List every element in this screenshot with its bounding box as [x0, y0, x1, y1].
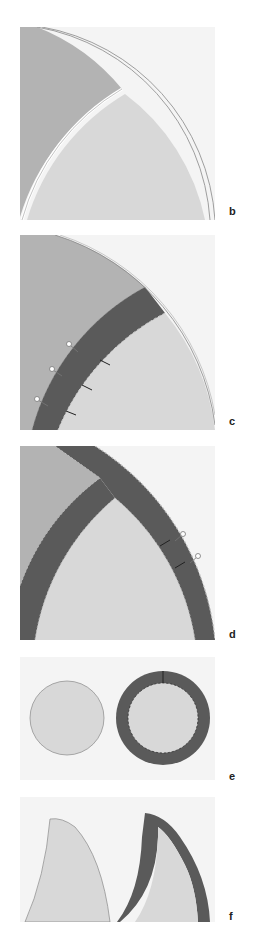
bound-circle-illustration — [20, 657, 215, 780]
panel-d — [20, 446, 215, 640]
panel-label-e: e — [229, 770, 235, 782]
panel-label-f: f — [229, 910, 233, 922]
panel-f — [20, 797, 215, 922]
bound-curved-shape-illustration — [20, 797, 215, 922]
panel-label-c: c — [229, 415, 235, 427]
panel-e — [20, 657, 215, 780]
panel-c — [20, 235, 215, 430]
bias-strip-pinned-illustration — [20, 235, 215, 430]
panel-label-b: b — [229, 205, 236, 217]
panel-label-d: d — [229, 628, 236, 640]
crossed-bias-strips-illustration — [20, 446, 215, 640]
panel-b — [20, 27, 215, 220]
quarter-circle-illustration — [20, 27, 215, 220]
